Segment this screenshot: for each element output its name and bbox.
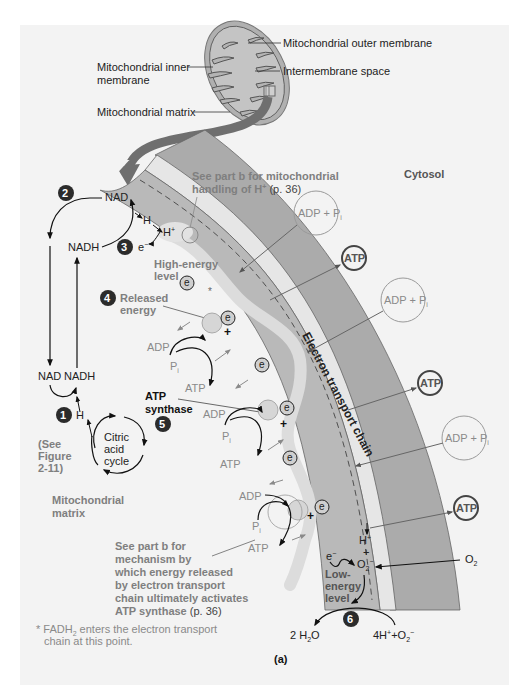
label-inner-membrane-1: Mitochondrial inner (97, 61, 190, 73)
svg-text:cycle: cycle (104, 455, 129, 467)
svg-text:2: 2 (62, 187, 68, 199)
label-atp-synthase-2: synthase (145, 403, 193, 415)
svg-text:+: + (280, 417, 287, 431)
label-nad-bottom: NAD (38, 370, 61, 382)
svg-text:e: e (225, 312, 231, 323)
label-nadh-bottom: NADH (64, 370, 95, 382)
svg-text:ADP: ADP (203, 408, 226, 420)
fadh2-star: * (208, 286, 212, 297)
label-low-energy-3: level (325, 592, 349, 604)
note-part-b-hplus-2: handling of H+ (p. 36) (192, 183, 301, 195)
label-released-energy-2: energy (120, 304, 157, 316)
label-cytosol: Cytosol (404, 168, 444, 180)
svg-text:ADP: ADP (147, 341, 170, 353)
step-6: 6 (343, 611, 359, 627)
svg-text:acid: acid (104, 443, 124, 455)
svg-text:ATP: ATP (420, 377, 441, 389)
svg-text:e: e (287, 452, 293, 463)
label-outer-membrane: Mitochondrial outer membrane (283, 37, 432, 49)
svg-text:ADP: ADP (239, 490, 262, 502)
svg-text:e: e (284, 402, 290, 413)
etc-diagram: Mitochondrial outer membrane Intermembra… (0, 0, 526, 691)
svg-text:See part b for: See part b for (115, 540, 187, 552)
svg-text:+: + (307, 509, 314, 523)
svg-text:ATP: ATP (220, 458, 241, 470)
label-h-top: H (143, 214, 151, 226)
label-high-energy: High-energy (154, 258, 219, 270)
svg-text:e: e (319, 501, 325, 512)
label-h-bottom: H (76, 409, 84, 421)
label-high-energy-2: level (154, 270, 178, 282)
label-nad-top: NAD (105, 191, 128, 203)
label-low-energy: Low- (325, 568, 351, 580)
svg-text:ATP: ATP (185, 382, 206, 394)
svg-text:4: 4 (104, 292, 111, 304)
step-2: 2 (58, 185, 74, 201)
svg-text:1: 1 (60, 409, 66, 421)
svg-text:by electron transport: by electron transport (115, 579, 225, 591)
label-released-energy: Released (120, 292, 168, 304)
label-see-figure: (See (38, 438, 61, 450)
label-inner-membrane-2: membrane (97, 74, 150, 86)
svg-text:e: e (184, 277, 190, 288)
svg-text:ATP: ATP (344, 252, 365, 264)
panel-label: (a) (274, 653, 288, 665)
step-5: 5 (155, 416, 171, 432)
svg-text:e: e (259, 359, 265, 370)
svg-text:mechanism by: mechanism by (115, 553, 192, 565)
svg-text:which energy released: which energy released (114, 566, 233, 578)
svg-text:ADP + Pi: ADP + Pi (298, 207, 342, 221)
label-intermembrane-space: Intermembrane space (283, 65, 390, 77)
svg-text:chain at this point.: chain at this point. (44, 635, 133, 647)
svg-text:3: 3 (121, 241, 127, 253)
svg-text:ATP: ATP (248, 542, 269, 554)
label-mitochondrial-matrix: Mitochondrial (52, 494, 124, 506)
label-see-figure-3: 2-11) (38, 462, 63, 474)
label-see-figure-2: Figure (38, 450, 72, 462)
label-matrix: Mitochondrial matrix (97, 106, 196, 118)
svg-text:ADP + Pi: ADP + Pi (384, 294, 428, 308)
label-low-energy-2: energy (325, 580, 362, 592)
label-water: 2 H2O (290, 629, 320, 643)
svg-text:ATP synthase (p. 36): ATP synthase (p. 36) (115, 605, 222, 617)
svg-text:Citric: Citric (104, 431, 130, 443)
step-1: 1 (56, 407, 72, 423)
svg-text:5: 5 (159, 418, 165, 430)
note-part-b-hplus-1: See part b for mitochondrial (192, 170, 339, 182)
step-4: 4 (100, 290, 116, 306)
label-plus: + (363, 546, 369, 558)
svg-text:6: 6 (347, 613, 353, 625)
label-nadh-top: NADH (68, 241, 99, 253)
label-atp-synthase: ATP (145, 390, 166, 402)
svg-text:+: + (224, 325, 231, 339)
svg-text:ATP: ATP (456, 502, 477, 514)
step-3: 3 (117, 239, 133, 255)
svg-text:ADP + Pi: ADP + Pi (445, 432, 489, 446)
svg-text:chain ultimately activates: chain ultimately activates (115, 592, 248, 604)
label-mitochondrial-matrix-2: matrix (52, 507, 86, 519)
